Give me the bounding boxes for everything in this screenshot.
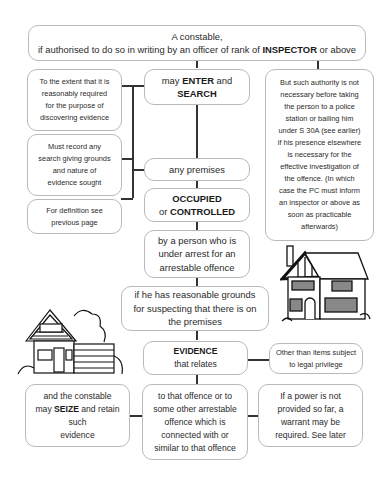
connector (132, 85, 134, 198)
text: For definition see (46, 205, 103, 217)
text: afterwards) (301, 221, 338, 233)
connector (196, 221, 198, 230)
constable-authorisation-box: A constable, if authorised to do so in w… (28, 25, 366, 61)
connector (196, 375, 198, 384)
text: and nature of (53, 165, 97, 177)
text: may (162, 75, 182, 86)
text: under S 30A (see earlier) (278, 125, 360, 137)
connector (129, 415, 143, 417)
text: evidence sought (48, 177, 102, 189)
text: the person to a police (284, 101, 355, 113)
search-bold: SEARCH (177, 87, 217, 101)
text: to that offence or to (158, 390, 232, 403)
text: necessary before taking (280, 89, 358, 101)
legal-privilege-box: Other than items subject to legal privil… (269, 343, 363, 374)
text: to legal privilege (289, 359, 342, 371)
connector (196, 104, 198, 159)
text: case the PC must inform (279, 185, 360, 197)
text: search giving grounds (38, 153, 110, 165)
text: or above (317, 44, 356, 55)
connector (196, 60, 198, 68)
text: similar to that offence (154, 442, 236, 455)
text: Other than items subject (276, 347, 356, 359)
text: is necessary for the (287, 149, 351, 161)
constable-line: A constable, (171, 30, 222, 44)
text: provided so far, a (278, 403, 344, 416)
text: reasonably required (42, 88, 107, 100)
related-offence-box: to that offence or to some other arresta… (142, 384, 248, 460)
enter-bold: ENTER (182, 75, 214, 86)
arrested-person-box: by a person who is under arrest for an a… (144, 230, 250, 278)
text: and the constable (44, 390, 112, 403)
authority-exception-box: But such authority is not necessary befo… (265, 69, 374, 241)
text: arrestable offence (160, 261, 235, 275)
evidence-box: EVIDENCE that relates (143, 341, 248, 375)
enter-search-box: may ENTER and SEARCH (144, 69, 250, 105)
text: To the extent that it is (40, 76, 110, 88)
text: may ENTER and (162, 74, 232, 88)
connector (121, 198, 133, 200)
text: the premises (168, 315, 222, 329)
text: if he has reasonable grounds (135, 288, 256, 302)
text: may SEIZE and retain (35, 403, 119, 416)
reasonable-grounds-box: if he has reasonable grounds for suspect… (121, 286, 269, 331)
text: for the purpose of (46, 100, 104, 112)
seize-box: and the constable may SEIZE and retain s… (25, 384, 130, 447)
text: or (159, 206, 170, 217)
text: But such authority is not (280, 77, 359, 89)
extent-box: To the extent that it is reasonably requ… (27, 69, 122, 131)
text: connected with or (161, 429, 228, 442)
connector (196, 330, 198, 340)
text: effective investigation of (280, 161, 359, 173)
connector (121, 158, 133, 160)
text: or CONTROLLED (159, 205, 235, 219)
bungalow-icon (16, 306, 128, 378)
text: by a person who is (158, 234, 236, 248)
house-icon (280, 243, 375, 323)
occupied-bold: OCCUPIED (172, 192, 221, 206)
text: under arrest for an (158, 247, 235, 261)
text: offence which is (165, 416, 226, 429)
text: station or bailing him (286, 113, 354, 125)
text: if authorised to do so in writing by an … (38, 44, 262, 55)
text: such (68, 416, 86, 429)
connector (196, 180, 198, 188)
record-search-box: Must record any search giving grounds an… (27, 134, 122, 196)
inspector-bold: INSPECTOR (262, 44, 317, 55)
text: and retain (79, 404, 120, 414)
occupied-controlled-box: OCCUPIED or CONTROLLED (144, 188, 250, 222)
text: discovering evidence (40, 112, 109, 124)
warrant-box: If a power is not provided so far, a war… (258, 384, 363, 447)
controlled-bold: CONTROLLED (170, 206, 235, 217)
text: previous page (51, 217, 97, 229)
text: If a power is not (280, 390, 341, 403)
text: soon as practicable (288, 209, 352, 221)
text: any premises (169, 163, 225, 177)
definition-box: For definition see previous page (27, 199, 122, 234)
connector (247, 415, 258, 417)
any-premises-box: any premises (144, 158, 250, 181)
text: and (214, 75, 232, 86)
text: evidence (60, 429, 94, 442)
text: Must record any (48, 141, 101, 153)
connector (247, 359, 269, 361)
text: some other arrestable (153, 403, 237, 416)
connector (132, 169, 144, 171)
text: may (35, 404, 54, 414)
text: an inspector or above as (279, 197, 360, 209)
text: warrant may be (281, 416, 340, 429)
text: required. See later (275, 429, 346, 442)
seize-bold: SEIZE (54, 404, 79, 414)
text: for suspecting that there is on (134, 302, 257, 316)
inspector-line: if authorised to do so in writing by an … (38, 43, 356, 57)
connector (317, 60, 319, 69)
text: the offence. (In which (284, 173, 354, 185)
connector (196, 277, 198, 286)
text: that relates (174, 358, 217, 371)
evidence-bold: EVIDENCE (174, 345, 218, 358)
text: if his presence elsewhere (278, 137, 361, 149)
